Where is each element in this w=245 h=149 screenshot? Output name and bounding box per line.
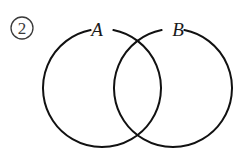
set-a-circle [43,30,161,147]
item-number-marker: 2 [11,17,33,39]
set-b-label: B [172,19,184,40]
figure-root: 2 A B [0,0,245,149]
set-a-label: A [89,19,103,40]
venn-diagram: 2 A B [0,0,245,149]
set-b-circle [114,30,232,147]
marker-number-label: 2 [18,19,27,38]
